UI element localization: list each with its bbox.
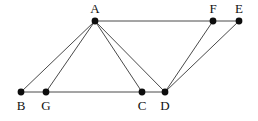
vertex-label-g: G (41, 98, 50, 113)
vertex-label-c: C (138, 98, 147, 113)
graph-vertex-d (162, 89, 169, 96)
graph-edge-a-g (46, 21, 95, 92)
graph-vertex-a (92, 18, 99, 25)
graph-canvas: ABGCDFE (0, 0, 258, 121)
graph-edge-d-f (165, 21, 213, 92)
graph-vertex-c (139, 89, 146, 96)
vertex-label-b: B (17, 98, 26, 113)
graph-vertex-e (236, 18, 243, 25)
graph-vertex-g (43, 89, 50, 96)
edges-layer (21, 21, 239, 92)
graph-vertex-f (210, 18, 217, 25)
vertex-label-f: F (209, 1, 216, 16)
vertex-label-d: D (160, 98, 169, 113)
graph-edge-a-c (95, 21, 142, 92)
graph-edge-a-d (95, 21, 165, 92)
graph-figure: ABGCDFE (0, 0, 258, 121)
graph-vertex-b (18, 89, 25, 96)
graph-edge-a-b (21, 21, 95, 92)
vertex-label-a: A (90, 1, 100, 16)
vertex-label-e: E (235, 1, 243, 16)
graph-edge-d-e (165, 21, 239, 92)
